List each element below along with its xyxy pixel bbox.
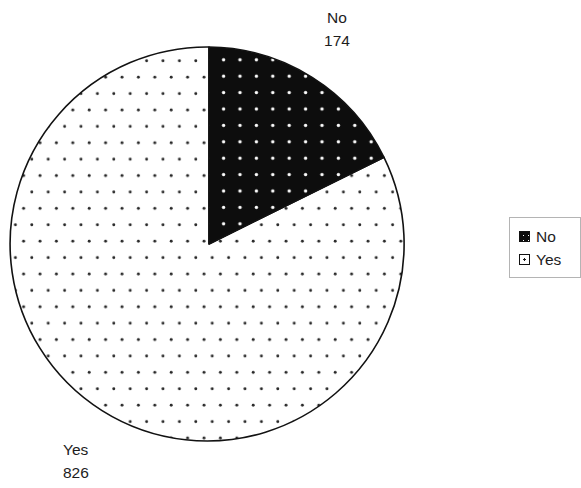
slice-label-yes-name: Yes <box>63 438 89 461</box>
chart-legend: No Yes <box>509 217 581 278</box>
legend-item-yes[interactable]: Yes <box>519 248 580 271</box>
slice-label-yes: Yes 826 <box>63 438 89 484</box>
legend-swatch-no-icon <box>519 231 530 242</box>
slice-label-no: No 174 <box>307 6 367 52</box>
slice-label-yes-value: 826 <box>63 461 89 484</box>
legend-item-no[interactable]: No <box>519 225 580 248</box>
slice-label-no-name: No <box>307 6 367 29</box>
legend-label-no: No <box>536 228 556 245</box>
legend-label-yes: Yes <box>536 251 561 268</box>
slice-label-no-value: 174 <box>307 29 367 52</box>
legend-swatch-yes-icon <box>519 254 530 265</box>
pie-slices <box>10 47 404 441</box>
